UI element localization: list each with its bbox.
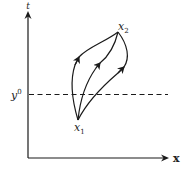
vertical-axis: t <box>25 1 32 158</box>
right-path <box>78 67 124 120</box>
middle-path <box>78 63 100 120</box>
horizontal-axis: x <box>28 152 180 165</box>
threshold-label: y0 <box>10 88 22 102</box>
threshold-line: y0 <box>10 88 168 102</box>
middle-path-arrow-icon <box>96 63 100 68</box>
trajectory-paths <box>72 32 127 120</box>
right-path-upper <box>118 32 127 67</box>
vertical-axis-label: t <box>26 1 30 11</box>
left-path-arrow-icon <box>75 57 79 65</box>
middle-path-upper <box>100 32 118 63</box>
start-point-label: x1 <box>74 121 85 136</box>
end-point-label: x2 <box>118 20 129 35</box>
right-path-arrow-icon <box>118 67 124 73</box>
horizontal-axis-label: x <box>173 152 180 165</box>
left-path-upper <box>79 32 118 57</box>
trajectory-diagram: t x y0 x1 x2 <box>0 0 186 170</box>
left-path <box>72 57 79 120</box>
